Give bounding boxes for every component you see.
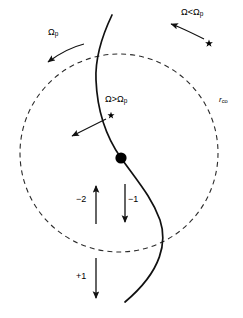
outside-corotation-symbol: Ω<Ω bbox=[181, 7, 200, 17]
inside-corotation-motion-arrow bbox=[72, 119, 106, 136]
pattern-speed-label: Ωp bbox=[48, 28, 58, 37]
inside-corotation-subscript: p bbox=[124, 97, 128, 104]
star-marker-outside-corotation bbox=[205, 39, 213, 46]
corotation-radius-subscript: co bbox=[222, 98, 228, 104]
outside-corotation-motion-arrow bbox=[171, 24, 204, 39]
resonance-plus-one-label: +1 bbox=[76, 272, 86, 281]
inside-corotation-label: Ω>Ωp bbox=[105, 95, 127, 104]
inside-corotation-symbol: Ω>Ω bbox=[105, 94, 124, 104]
corotation-radius-label: rco bbox=[219, 96, 228, 104]
pattern-speed-subscript: p bbox=[55, 30, 59, 37]
pattern-speed-arrow bbox=[48, 44, 84, 62]
outside-corotation-subscript: p bbox=[200, 10, 204, 17]
resonance-minus-one-label: −1 bbox=[128, 195, 138, 204]
outside-corotation-label: Ω<Ωp bbox=[181, 8, 203, 17]
corotation-diagram: Ωp Ω<Ωp Ω>Ωp rco −2 −1 +1 bbox=[0, 0, 243, 318]
pattern-speed-symbol: Ω bbox=[48, 27, 55, 37]
spiral-arm-curve bbox=[96, 15, 163, 302]
resonance-minus-two-label: −2 bbox=[76, 195, 86, 204]
corotation-point-dot bbox=[115, 152, 126, 163]
star-marker-inside-corotation bbox=[108, 112, 115, 119]
diagram-canvas bbox=[0, 0, 243, 318]
